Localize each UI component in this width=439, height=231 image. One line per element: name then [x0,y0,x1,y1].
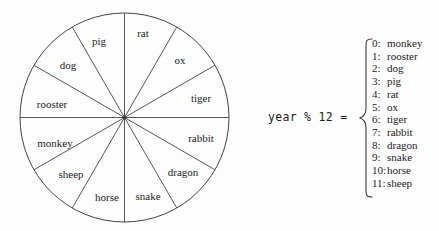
legend-item-value: sheep [387,177,412,190]
legend-item-key: 1: [372,50,387,63]
sector-label-ox: ox [175,55,186,66]
legend-item: 2:dog [372,62,438,75]
wheel-center-hub [123,116,126,119]
sector-label-pig: pig [92,36,106,47]
sector-label-rat: rat [137,28,149,39]
legend-item-key: 5: [372,101,387,114]
legend-item-key: 2: [372,62,387,75]
legend-item-value: rooster [387,50,418,63]
legend-item-key: 8: [372,139,387,152]
legend-item: 7:rabbit [372,126,438,139]
legend-item-key: 7: [372,126,387,139]
legend-item-key: 11: [372,177,387,190]
legend-item: 4:rat [372,88,438,101]
zodiac-wheel: ratoxtigerrabbitdragonsnakehorsesheepmon… [0,0,250,231]
sector-label-sheep: sheep [58,169,83,180]
legend-item-value: dragon [387,139,418,152]
wheel-diagram-svg [0,0,250,231]
sector-label-monkey: monkey [37,138,72,149]
wheel-spoke [125,118,216,170]
legend-item-value: horse [387,164,411,177]
sector-label-tiger: tiger [191,93,211,104]
sector-label-snake: snake [135,191,160,202]
sector-label-horse: horse [95,192,119,203]
legend-item: 10:horse [372,164,438,177]
sector-label-dog: dog [60,60,77,71]
legend-item-key: 0: [372,37,387,50]
legend-item-value: pig [387,75,401,88]
legend-item-value: dog [387,62,404,75]
legend-item: 8:dragon [372,139,438,152]
legend-item-value: snake [387,151,412,164]
legend-item-value: rat [387,88,399,101]
legend-item-key: 4: [372,88,387,101]
legend-item: 11:sheep [372,177,438,190]
legend-item-key: 3: [372,75,387,88]
wheel-spoke [34,65,125,117]
legend-item: 1:rooster [372,50,438,63]
sector-label-dragon: dragon [168,167,199,178]
legend-item: 6:tiger [372,113,438,126]
legend-item-value: rabbit [387,126,413,139]
legend-item-value: ox [387,101,398,114]
legend-item-value: tiger [387,113,407,126]
legend-item: 5:ox [372,101,438,114]
sector-label-rabbit: rabbit [188,133,214,144]
zodiac-wheel-figure: ratoxtigerrabbitdragonsnakehorsesheepmon… [0,0,439,231]
legend-item-value: monkey [387,37,422,50]
legend-item: 3:pig [372,75,438,88]
legend-item-key: 10: [372,164,387,177]
legend-item-key: 9: [372,151,387,164]
wheel-spoke [125,27,177,118]
legend-item: 0:monkey [372,37,438,50]
zodiac-index-legend: 0:monkey1:rooster2:dog3:pig4:rat5:ox6:ti… [372,37,438,189]
formula-text: year % 12 = [268,110,347,124]
legend-item-key: 6: [372,113,387,126]
legend-item: 9:snake [372,151,438,164]
sector-label-rooster: rooster [37,99,68,110]
